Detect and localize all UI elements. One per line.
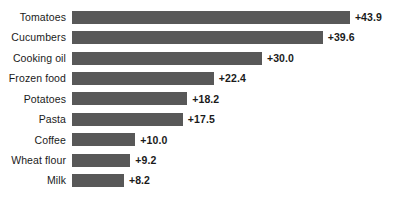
bar-track: +9.2 xyxy=(72,150,403,170)
table-row: Wheat flour +9.2 xyxy=(0,150,403,170)
category-label: Milk xyxy=(0,175,72,186)
value-label: +30.0 xyxy=(262,53,294,64)
category-label: Wheat flour xyxy=(0,155,72,166)
table-row: Frozen food +22.4 xyxy=(0,68,403,88)
category-label: Cucumbers xyxy=(0,32,72,43)
table-row: Potatoes +18.2 xyxy=(0,89,403,109)
bar-track: +10.0 xyxy=(72,130,403,150)
category-label: Tomatoes xyxy=(0,12,72,23)
bar-track: +18.2 xyxy=(72,89,403,109)
value-label: +18.2 xyxy=(187,94,219,105)
category-label: Frozen food xyxy=(0,73,72,84)
value-label: +39.6 xyxy=(323,32,355,43)
table-row: Coffee +10.0 xyxy=(0,130,403,150)
chart-plot-area: Tomatoes +43.9 Cucumbers +39.6 Cooking o… xyxy=(0,7,403,205)
bar xyxy=(72,52,262,65)
bar xyxy=(72,31,323,44)
value-label: +17.5 xyxy=(183,114,215,125)
category-label: Cooking oil xyxy=(0,53,72,64)
table-row: Milk +8.2 xyxy=(0,171,403,191)
category-label: Coffee xyxy=(0,135,72,146)
value-label: +43.9 xyxy=(350,12,382,23)
bar xyxy=(72,92,187,105)
bar-track: +39.6 xyxy=(72,27,403,47)
bar-track: +30.0 xyxy=(72,48,403,68)
bar xyxy=(72,11,350,24)
bar xyxy=(72,154,130,167)
bar-track: +17.5 xyxy=(72,109,403,129)
bar-track: +22.4 xyxy=(72,68,403,88)
bar-track: +8.2 xyxy=(72,171,403,191)
bar xyxy=(72,72,214,85)
value-label: +9.2 xyxy=(130,155,156,166)
bar xyxy=(72,174,124,187)
bar-chart: Tomatoes +43.9 Cucumbers +39.6 Cooking o… xyxy=(0,0,403,212)
table-row: Cucumbers +39.6 xyxy=(0,27,403,47)
category-label: Potatoes xyxy=(0,94,72,105)
table-row: Pasta +17.5 xyxy=(0,109,403,129)
value-label: +22.4 xyxy=(214,73,246,84)
bar xyxy=(72,113,183,126)
value-label: +10.0 xyxy=(135,135,167,146)
category-label: Pasta xyxy=(0,114,72,125)
bar xyxy=(72,133,135,146)
table-row: Tomatoes +43.9 xyxy=(0,7,403,27)
table-row: Cooking oil +30.0 xyxy=(0,48,403,68)
value-label: +8.2 xyxy=(124,175,150,186)
bar-track: +43.9 xyxy=(72,7,403,27)
